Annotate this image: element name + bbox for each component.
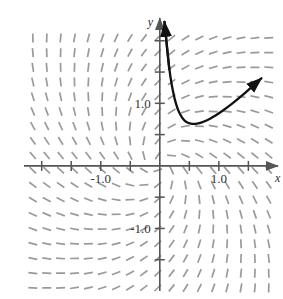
- x-tick-label: -1.0: [90, 171, 111, 186]
- x-tick-label: 1.0: [211, 171, 227, 186]
- y-axis-label: y: [147, 15, 154, 29]
- y-tick-label: 1.0: [135, 96, 151, 111]
- y-tick-label: -1.0: [130, 221, 151, 236]
- figure-root: 4. -1.01.01.0-1.0 x: [0, 0, 283, 299]
- plot-canvas: -1.01.01.0-1.0 x y: [0, 0, 283, 299]
- x-axis-label: x: [274, 171, 281, 185]
- slope-field-plot: -1.01.01.0-1.0 x y: [0, 0, 283, 299]
